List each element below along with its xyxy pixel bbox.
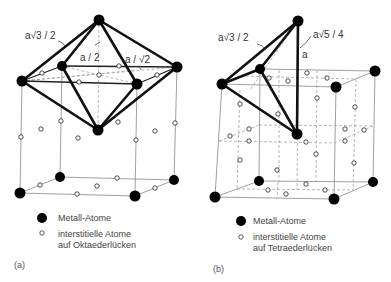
label-a-half: a / 2: [80, 52, 99, 63]
legend-interstitial-a-line2: auf Oktaederlücken: [58, 240, 136, 251]
metal-legend-icon-a: [37, 213, 47, 223]
label-b-diag: a√5 / 4: [313, 29, 344, 40]
caption-b: (b): [213, 264, 224, 274]
figure-b-diagram: [210, 16, 381, 240]
interstitial-legend-icon-b: [239, 235, 243, 239]
legend-interstitial-a-line1: interstitielle Atome: [58, 229, 131, 240]
interstitial-legend-icon-a: [40, 231, 44, 235]
legend-metal-a: Metall-Atome: [58, 213, 111, 224]
legend-interstitial-b-line1: interstitielle Atome: [253, 232, 326, 243]
label-b-edge-long: a√3 / 2: [218, 32, 249, 43]
legend-metal-b: Metall-Atome: [253, 216, 306, 227]
label-a-diag: a / √2: [125, 54, 150, 65]
metal-legend-icon-b: [236, 216, 246, 226]
label-b-height: a: [302, 49, 308, 60]
caption-a: (a): [14, 260, 25, 270]
label-a-edge-long: a√3 / 2: [25, 30, 56, 41]
figure-a-diagram: [15, 15, 183, 236]
legend-interstitial-b-line2: auf Tetraederlücken: [253, 243, 332, 254]
